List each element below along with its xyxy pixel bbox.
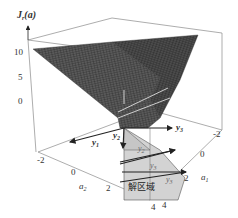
inner-y3b-label: y3 xyxy=(166,176,173,185)
a2-tick-2: 2 xyxy=(106,184,111,193)
inner-y3a-label: y3 xyxy=(150,162,157,171)
a1-tick-0: 0 xyxy=(200,150,205,159)
surface-plot xyxy=(0,0,238,218)
y3-label: y3 xyxy=(176,123,183,133)
y2-label: y2 xyxy=(113,131,120,141)
a1-tick-2: 2 xyxy=(184,174,189,183)
z-tick-0: 0 xyxy=(18,97,23,106)
a1-tick-4: 4 xyxy=(162,201,167,210)
y1-sub: 1 xyxy=(96,142,99,148)
inner-y2-sub: 2 xyxy=(142,148,145,154)
a1-axis-label: a1 xyxy=(201,173,209,183)
y1-label: y1 xyxy=(92,138,99,148)
inner-y3a-sub: 3 xyxy=(154,165,157,171)
z-axis-label: Jr(a) xyxy=(17,10,36,21)
a1-tick-neg2: -2 xyxy=(213,130,221,139)
z-axis-arg: (a) xyxy=(24,9,36,20)
a2-sub: 2 xyxy=(84,186,87,192)
solution-region-label: 解区域 xyxy=(128,183,155,192)
a1-sub: 1 xyxy=(206,177,209,183)
z-tick-10: 10 xyxy=(14,48,23,57)
a2-tick-neg2: -2 xyxy=(37,156,45,165)
y3-sub: 3 xyxy=(180,127,183,133)
a2-tick-0: 0 xyxy=(71,168,76,177)
a2-tick-4: 4 xyxy=(151,203,156,212)
inner-y3b-sub: 3 xyxy=(170,179,173,185)
a2-axis-label: a2 xyxy=(79,182,87,192)
z-tick-5: 5 xyxy=(18,73,23,82)
inner-y2-label: y2 xyxy=(138,145,145,154)
y2-sub: 2 xyxy=(117,135,120,141)
